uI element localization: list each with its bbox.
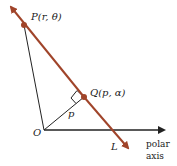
label-axis: axis <box>146 151 164 161</box>
point-p <box>21 22 27 28</box>
polar-line-diagram: P(r, θ) Q(p, α) O p L polar axis <box>0 0 177 166</box>
label-polar: polar <box>146 139 170 149</box>
segment-op <box>24 25 44 130</box>
label-line-l: L <box>110 141 118 152</box>
label-q: Q(p, α) <box>90 87 126 98</box>
label-p: P(r, θ) <box>30 11 62 22</box>
label-segment-p: p <box>68 108 75 119</box>
label-o: O <box>33 127 41 138</box>
point-q <box>81 94 87 100</box>
segment-oq <box>44 97 84 130</box>
line-l-lower <box>84 97 128 148</box>
